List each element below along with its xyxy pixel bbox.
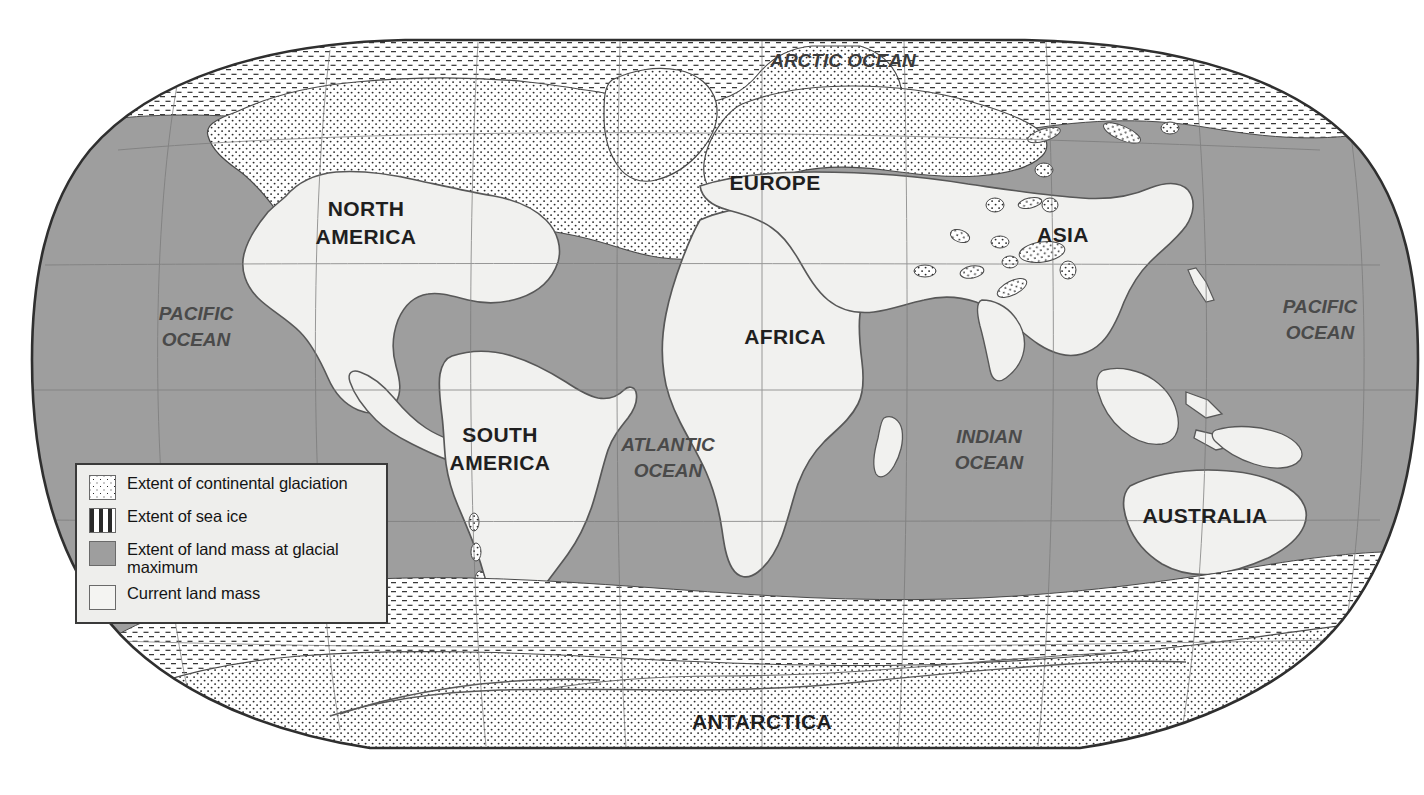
- ocean-label-pacific-ocean-west-line1: PACIFIC: [1283, 296, 1358, 317]
- legend-label-glacial-maximum-land: Extent of land mass at glacial maximum: [127, 540, 376, 577]
- ocean-label-pacific-ocean-west-line2: OCEAN: [1286, 322, 1356, 343]
- map-body: [0, 0, 1424, 795]
- continent-label-africa: AFRICA: [744, 325, 826, 348]
- continent-label-australia: AUSTRALIA: [1143, 504, 1268, 527]
- legend-item-glacial-maximum-land: Extent of land mass at glacial maximum: [89, 540, 376, 577]
- ocean-label-pacific-ocean-east-line1: PACIFIC: [159, 303, 234, 324]
- ocean-label-indian-ocean-line1: INDIAN: [956, 426, 1023, 447]
- continent-label-north-america-line1: NORTH: [328, 197, 405, 220]
- ocean-label-arctic-ocean: ARCTIC OCEAN: [769, 50, 917, 71]
- map-canvas: ARCTIC OCEAN PACIFIC OCEAN PACIFIC OCEAN…: [0, 0, 1424, 795]
- continent-label-asia: ASIA: [1037, 223, 1089, 246]
- solid-gray-swatch-icon: [89, 541, 116, 566]
- legend-label-sea-ice: Extent of sea ice: [127, 507, 247, 525]
- continent-label-south-america-line2: AMERICA: [450, 451, 551, 474]
- legend-label-current-land-mass: Current land mass: [127, 584, 260, 602]
- plain-white-swatch-icon: [89, 585, 116, 610]
- legend-label-continental-glaciation: Extent of continental glaciation: [127, 474, 348, 492]
- continent-label-north-america-line2: AMERICA: [316, 225, 417, 248]
- continent-label-europe: EUROPE: [729, 171, 820, 194]
- ocean-label-indian-ocean-line2: OCEAN: [955, 452, 1025, 473]
- legend-item-current-land-mass: Current land mass: [89, 584, 376, 610]
- legend-item-sea-ice: Extent of sea ice: [89, 507, 376, 533]
- map-legend: Extent of continental glaciation Extent …: [75, 463, 388, 624]
- dashed-white-swatch-icon: [89, 508, 116, 533]
- dotted-white-swatch-icon: [89, 475, 116, 500]
- legend-item-continental-glaciation: Extent of continental glaciation: [89, 474, 376, 500]
- continent-label-south-america-line1: SOUTH: [462, 423, 538, 446]
- world-glaciation-map: ARCTIC OCEAN PACIFIC OCEAN PACIFIC OCEAN…: [0, 0, 1424, 795]
- continent-label-antarctica: ANTARCTICA: [692, 710, 832, 733]
- ocean-label-pacific-ocean-east-line2: OCEAN: [162, 329, 232, 350]
- ocean-label-atlantic-ocean-line2: OCEAN: [634, 460, 704, 481]
- ocean-label-atlantic-ocean-line1: ATLANTIC: [620, 434, 715, 455]
